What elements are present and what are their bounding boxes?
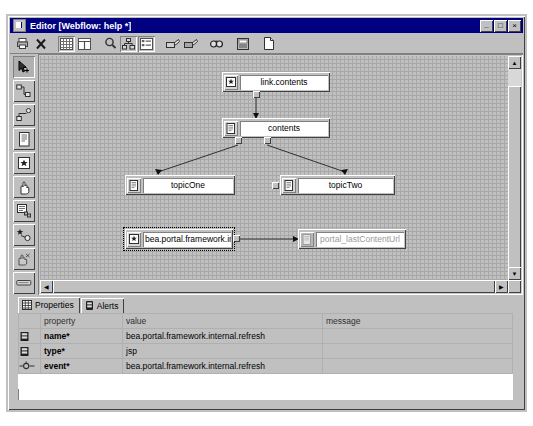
alert-icon: [85, 300, 94, 311]
node-link-contents[interactable]: link.contents: [222, 72, 330, 92]
col-property[interactable]: property: [41, 314, 123, 329]
node-port-out-link-contents[interactable]: [253, 91, 260, 98]
horizontal-scroll-thumb[interactable]: [53, 280, 495, 293]
main-area: link.contents contents: [10, 54, 523, 408]
edge-contents-to-topic-two: [267, 145, 345, 172]
empty-cell: [19, 374, 41, 389]
star-action-icon: [127, 232, 141, 247]
properties-grid[interactable]: property value message: [18, 313, 513, 400]
toolbar-separator-3: [156, 36, 163, 52]
event-icon: [19, 359, 41, 374]
page-icon: [282, 178, 296, 193]
print-icon[interactable]: [14, 36, 31, 52]
delete-icon[interactable]: [32, 36, 49, 52]
canvas-vertical-scrollbar[interactable]: ▲ ▼: [508, 56, 521, 280]
node-topic-one[interactable]: topicOne: [125, 175, 235, 195]
tab-properties[interactable]: Properties: [18, 297, 80, 313]
canvas-horizontal-scrollbar[interactable]: ◀ ▶: [40, 280, 508, 293]
toolbar-separator-5: [226, 36, 233, 52]
scroll-right-button[interactable]: ▶: [495, 280, 508, 293]
row-value[interactable]: bea.portal.framework.internal.refresh: [123, 359, 323, 374]
find-icon[interactable]: [208, 36, 225, 52]
action-node-icon[interactable]: [13, 80, 35, 102]
node-port-out-refresh-action[interactable]: [233, 235, 240, 242]
empty-cell: [323, 374, 513, 389]
node-refresh-action[interactable]: bea.portal.framework.in...: [125, 229, 233, 249]
minimize-glyph: _: [480, 20, 493, 32]
table-row[interactable]: type* jsp: [19, 344, 513, 359]
new-file-icon[interactable]: [260, 36, 277, 52]
grab-tool-icon[interactable]: [13, 248, 35, 270]
row-property: name*: [41, 329, 123, 344]
empty-cell: [123, 374, 323, 389]
scroll-up-button[interactable]: ▲: [508, 56, 521, 69]
node-topic-two[interactable]: topicTwo: [280, 175, 395, 195]
diagram-canvas[interactable]: link.contents contents: [40, 56, 508, 280]
node-label: link.contents: [240, 75, 328, 90]
show-grid-icon[interactable]: [58, 36, 75, 52]
row-value[interactable]: bea.portal.framework.internal.refresh: [123, 329, 323, 344]
window-title: Editor [Webflow: help *]: [30, 21, 131, 31]
grid-icon: [22, 300, 32, 310]
editor-window: Editor [Webflow: help *] _ □ ×: [6, 14, 527, 412]
tab-alerts-label: Alerts: [97, 301, 119, 311]
node-port-out-contents-1[interactable]: [235, 137, 242, 144]
diagram-canvas-area: link.contents contents: [38, 54, 523, 295]
properties-panel: Properties Alerts: [10, 297, 523, 408]
new-page-flow-icon[interactable]: [164, 36, 181, 52]
empty-cell: [41, 374, 123, 389]
hand-tool-icon[interactable]: [13, 176, 35, 198]
zoom-icon[interactable]: [102, 36, 119, 52]
tab-alerts[interactable]: Alerts: [81, 298, 125, 313]
node-port-out-contents-2[interactable]: [264, 137, 271, 144]
star-node-icon[interactable]: [13, 224, 35, 246]
table-row[interactable]: event* bea.portal.framework.internal.ref…: [19, 359, 513, 374]
snap-grid-icon[interactable]: [76, 36, 93, 52]
table-row[interactable]: name* bea.portal.framework.internal.refr…: [19, 329, 513, 344]
row-value[interactable]: jsp: [123, 344, 323, 359]
transition-icon[interactable]: [13, 104, 35, 126]
title-bar[interactable]: Editor [Webflow: help *] _ □ ×: [10, 18, 523, 33]
toolbar-separator-6: [252, 36, 259, 52]
close-glyph: ×: [508, 20, 521, 32]
col-message[interactable]: message: [323, 314, 513, 329]
property-icon: [19, 329, 41, 344]
new-node-icon[interactable]: [182, 36, 199, 52]
page-icon: [127, 178, 141, 193]
minimize-button[interactable]: _: [480, 20, 493, 32]
bar-node-icon[interactable]: [13, 272, 35, 294]
align-list-icon[interactable]: [138, 36, 155, 52]
close-button[interactable]: ×: [508, 20, 521, 32]
row-property: event*: [41, 359, 123, 374]
toolbar-separator-2: [94, 36, 101, 52]
toolbar-separator-1: [50, 36, 57, 52]
scroll-down-button[interactable]: ▼: [508, 267, 521, 280]
layout-tree-icon[interactable]: [120, 36, 137, 52]
maximize-button[interactable]: □: [494, 20, 507, 32]
scroll-left-button[interactable]: ◀: [40, 280, 53, 293]
properties-icon[interactable]: [234, 36, 251, 52]
editor-document-icon: [13, 19, 26, 32]
main-toolbar: [10, 34, 523, 54]
begin-node-icon[interactable]: [13, 152, 35, 174]
row-property: type*: [41, 344, 123, 359]
page-node-icon[interactable]: [13, 128, 35, 150]
table-row-empty: [19, 374, 513, 389]
row-message: [323, 344, 513, 359]
node-label: portal_lastContentUrl: [316, 232, 404, 247]
scrollbar-corner: [508, 280, 521, 293]
window-controls: _ □ ×: [480, 20, 522, 32]
toolbar-separator-4: [200, 36, 207, 52]
stack-node-icon[interactable]: [13, 200, 35, 222]
node-last-content-url[interactable]: portal_lastContentUrl: [298, 229, 406, 249]
node-label: bea.portal.framework.in...: [143, 232, 231, 247]
col-value[interactable]: value: [123, 314, 323, 329]
page-icon: [224, 121, 238, 136]
select-tool-icon[interactable]: [13, 56, 35, 78]
node-contents[interactable]: contents: [222, 118, 330, 138]
node-label: contents: [240, 121, 328, 136]
node-port-in-topic-two[interactable]: [272, 182, 279, 189]
vertical-scroll-thumb[interactable]: [508, 86, 521, 276]
edge-contents-to-topic-one: [158, 145, 238, 172]
node-label: topicOne: [143, 178, 233, 193]
